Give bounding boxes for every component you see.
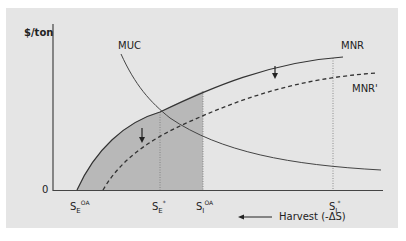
tick-se-oa: SEOA [70, 199, 90, 215]
mnr-label: MNR [341, 40, 364, 51]
muc-label: MUC [118, 40, 141, 51]
harvest-label: Harvest (-ΔS) [279, 211, 346, 222]
tick-si-oa: SIOA [196, 199, 213, 215]
y-axis-label: $/ton [24, 27, 53, 38]
harvest-arrow-icon [238, 215, 272, 220]
mnr-prime-label: MNR' [352, 83, 378, 94]
origin-label: 0 [42, 184, 48, 195]
tick-se-star: SE* [152, 199, 166, 215]
shaded-region [77, 91, 203, 190]
